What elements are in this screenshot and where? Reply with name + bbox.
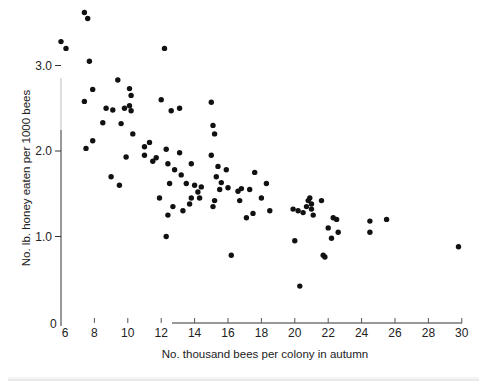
data-point [127, 86, 132, 91]
data-point [187, 201, 192, 206]
data-point [212, 131, 217, 136]
data-point [210, 204, 215, 209]
data-point [326, 225, 331, 230]
data-point [169, 108, 174, 113]
data-point [154, 155, 159, 160]
data-point [142, 144, 147, 149]
data-point [252, 170, 257, 175]
data-point [157, 195, 162, 200]
data-point [456, 244, 461, 249]
x-tick-label: 28 [422, 326, 436, 340]
truncated-caption [8, 376, 479, 381]
x-tick-label: 8 [91, 326, 98, 340]
data-point [82, 10, 87, 15]
data-point [123, 154, 128, 159]
data-point [189, 161, 194, 166]
data-point [108, 174, 113, 179]
data-point [177, 106, 182, 111]
data-point [297, 283, 302, 288]
data-point [217, 187, 222, 192]
y-axis-title: No. lb. honey eaten per 1000 bees [20, 90, 32, 267]
x-tick-label: 18 [255, 326, 269, 340]
data-point [87, 59, 92, 64]
data-point [210, 123, 215, 128]
x-tick-label: 14 [188, 326, 202, 340]
data-point [250, 211, 255, 216]
x-tick-label: 6 [62, 326, 69, 340]
y-tick-label: 1.0 [35, 230, 52, 244]
data-point [58, 39, 63, 44]
data-point [165, 161, 170, 166]
data-point [209, 100, 214, 105]
data-point [322, 254, 327, 259]
data-point [239, 186, 244, 191]
x-tick-label: 26 [388, 326, 402, 340]
data-point [224, 167, 229, 172]
data-point [334, 217, 339, 222]
data-point [212, 198, 217, 203]
data-point [384, 217, 389, 222]
data-point [295, 208, 300, 213]
data-point [307, 195, 312, 200]
data-point [309, 206, 314, 211]
data-point [195, 189, 200, 194]
data-point [159, 97, 164, 102]
data-point [100, 120, 105, 125]
data-point [247, 187, 252, 192]
x-tick-label: 16 [221, 326, 235, 340]
data-point [128, 108, 133, 113]
data-point [63, 46, 68, 51]
data-point [215, 164, 220, 169]
origin-label: 0 [50, 317, 57, 331]
data-point [304, 204, 309, 209]
data-point [192, 183, 197, 188]
data-point [292, 238, 297, 243]
data-point [115, 77, 120, 82]
data-point [170, 204, 175, 209]
data-point [130, 131, 135, 136]
data-point [177, 150, 182, 155]
data-point [237, 198, 242, 203]
data-point [83, 146, 88, 151]
data-point [142, 153, 147, 158]
data-point [199, 184, 204, 189]
axes: 1.02.03.00681012141618202224262830 [35, 59, 468, 341]
data-point [336, 230, 341, 235]
data-point [244, 215, 249, 220]
data-point [197, 195, 202, 200]
data-point [311, 212, 316, 217]
data-point [165, 212, 170, 217]
data-point [184, 181, 189, 186]
data-point [167, 181, 172, 186]
data-point [110, 107, 115, 112]
data-point [259, 195, 264, 200]
data-point [229, 253, 234, 258]
data-point [90, 138, 95, 143]
x-tick-label: 20 [288, 326, 302, 340]
data-point [290, 206, 295, 211]
x-axis-title: No. thousand bees per colony in autumn [162, 348, 369, 360]
x-tick-label: 12 [155, 326, 169, 340]
x-tick-label: 30 [455, 326, 469, 340]
data-point [128, 93, 133, 98]
data-point [300, 210, 305, 215]
data-point [103, 106, 108, 111]
data-point [329, 236, 334, 241]
y-tick-label: 2.0 [35, 144, 52, 158]
x-tick-label: 24 [355, 326, 369, 340]
data-point [147, 140, 152, 145]
data-point [319, 198, 324, 203]
data-point [85, 16, 90, 21]
data-point [127, 103, 132, 108]
data-point [122, 106, 127, 111]
data-point [118, 121, 123, 126]
data-point [214, 174, 219, 179]
x-tick-label: 22 [322, 326, 336, 340]
data-point [367, 218, 372, 223]
data-point [172, 167, 177, 172]
x-tick-label: 10 [121, 326, 135, 340]
data-point [90, 87, 95, 92]
data-point [180, 208, 185, 213]
data-point [164, 234, 169, 239]
data-point [179, 172, 184, 177]
